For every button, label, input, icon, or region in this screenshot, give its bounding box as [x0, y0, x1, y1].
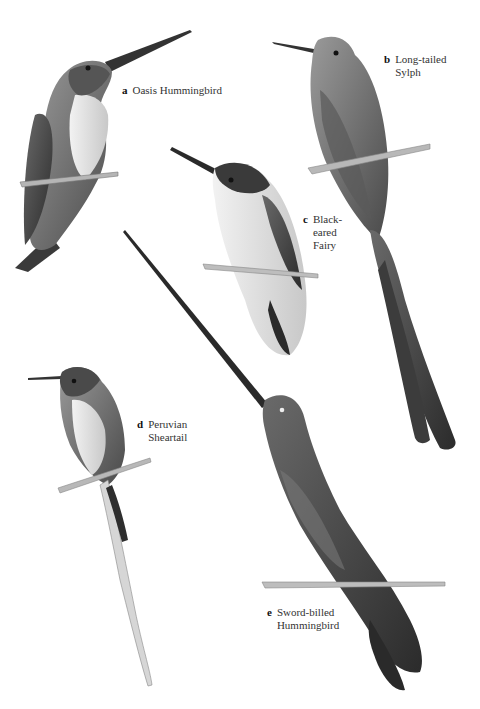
species-letter: a: [122, 84, 128, 96]
species-name-line: Sylph: [395, 66, 421, 78]
bird-c-black-eared-fairy: [170, 147, 318, 355]
species-name-line: Black-: [313, 213, 342, 225]
species-name-line: Hummingbird: [277, 619, 339, 631]
species-name-line: Peruvian: [148, 418, 187, 430]
species-name: Oasis Hummingbird: [133, 84, 223, 97]
bird-d-peruvian-sheartail: [28, 367, 152, 686]
species-label-a: aOasis Hummingbird: [122, 84, 222, 97]
species-name-line: Long-tailed: [395, 53, 446, 65]
hummingbird-plate: aOasis Hummingbird bLong-tailedSylph cBl…: [0, 0, 480, 709]
bird-a-oasis-hummingbird: [15, 30, 192, 272]
species-letter: d: [137, 418, 143, 430]
species-letter: b: [384, 53, 390, 65]
species-name-line: Sheartail: [148, 431, 187, 443]
bird-illustrations: [0, 0, 480, 709]
species-name-line: eared: [313, 226, 337, 238]
bird-b-long-tailed-sylph: [272, 37, 456, 450]
species-name-line: Sword-billed: [277, 606, 334, 618]
species-letter: c: [303, 213, 308, 225]
species-name-line: Fairy: [313, 239, 336, 251]
species-label-c: cBlack-earedFairy: [303, 213, 342, 252]
species-letter: e: [267, 606, 272, 618]
species-label-b: bLong-tailedSylph: [384, 53, 446, 79]
species-label-d: dPeruvianSheartail: [137, 418, 187, 444]
species-label-e: eSword-billedHummingbird: [267, 606, 339, 632]
